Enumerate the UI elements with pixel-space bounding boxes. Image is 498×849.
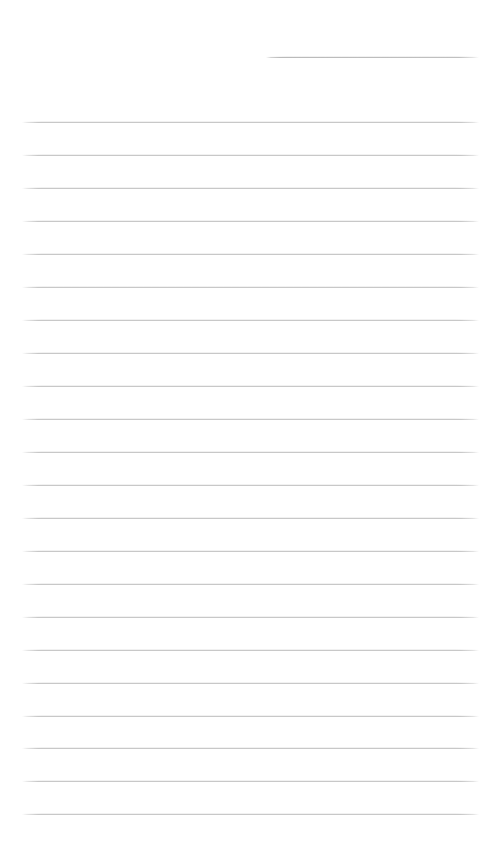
ruled-page: Ruled Writing Page bbox=[0, 0, 498, 849]
page-title: Ruled Writing Page bbox=[0, 0, 1, 1]
writing-area[interactable] bbox=[22, 0, 479, 849]
